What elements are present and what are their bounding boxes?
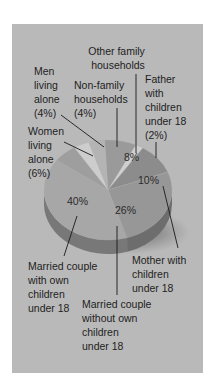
annotation-non-family: Non-family households (4%) [74, 79, 131, 119]
slice-label-married-with: 40% [67, 195, 88, 207]
annotation-line: Non-family [74, 79, 125, 91]
annotation-line: alone [28, 153, 54, 165]
annotation-line: under 18 [28, 302, 70, 314]
annotation-line: with own [27, 274, 69, 286]
annotation-line: Women [28, 125, 64, 137]
slice-label-married-without: 26% [115, 204, 136, 216]
annotation-line: Father [145, 73, 176, 85]
slice-label-mother: 10% [138, 174, 159, 186]
annotation-line: with [144, 87, 164, 99]
annotation-line: children [82, 326, 119, 338]
annotation-line: Other family [88, 45, 145, 57]
pie-slices [44, 140, 172, 240]
pie-chart: Other family households Father with chil… [0, 0, 210, 381]
annotation-mother: Mother with children under 18 [132, 254, 189, 294]
annotation-line: children [132, 268, 169, 280]
annotation-married-without: Married couple without own children unde… [81, 298, 154, 352]
annotation-line: under 18 [145, 115, 187, 127]
annotation-line: under 18 [82, 340, 124, 352]
annotation-line: (4%) [74, 107, 96, 119]
annotation-line: households [91, 59, 145, 71]
annotation-line: alone [34, 93, 60, 105]
slice-label-other-family: 8% [124, 151, 139, 163]
annotation-line: Mother with [132, 254, 186, 266]
annotation-line: (4%) [34, 107, 56, 119]
annotation-line: without own [81, 312, 138, 324]
leader-men [61, 115, 104, 147]
annotation-line: living [28, 139, 52, 151]
annotation-line: Married couple [28, 260, 98, 272]
annotation-father: Father with children under 18 (2%) [144, 73, 189, 141]
annotation-line: living [34, 79, 58, 91]
annotation-line: households [74, 93, 128, 105]
annotation-line: children [145, 101, 182, 113]
annotation-line: (6%) [28, 167, 50, 179]
annotation-line: children [28, 288, 65, 300]
annotation-other-family: Other family households [88, 45, 148, 71]
annotation-line: under 18 [132, 282, 174, 294]
annotation-line: Men [34, 65, 55, 77]
annotation-line: (2%) [145, 129, 167, 141]
annotation-line: Married couple [82, 298, 152, 310]
annotation-men: Men living alone (4%) [34, 65, 63, 119]
